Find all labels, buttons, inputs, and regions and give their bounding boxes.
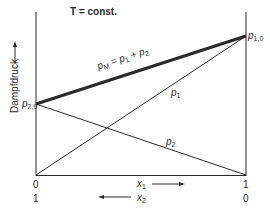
left-arrow-head (98, 195, 104, 199)
vapor-pressure-diagram (0, 0, 270, 213)
p2-line (36, 104, 246, 175)
p20-label: p2,0 (22, 99, 37, 110)
right-arrow-head (179, 182, 185, 186)
x2-label: x2 (137, 193, 146, 204)
diagram-title: T = const. (70, 7, 117, 17)
up-arrow-head (13, 41, 17, 47)
x1-tick-left: 0 (33, 180, 39, 190)
p10-label: p1,0 (248, 31, 263, 42)
x2-tick-right: 0 (243, 194, 249, 204)
x1-label: x1 (137, 179, 146, 190)
p1-label: p1 (171, 88, 180, 99)
x2-tick-left: 1 (33, 194, 39, 204)
p2-label: p2 (166, 137, 175, 148)
x1-tick-right: 1 (243, 180, 249, 190)
y-axis-label: Dampfdruck (10, 59, 20, 113)
